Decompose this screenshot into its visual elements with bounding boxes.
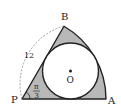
label-angle-numerator: π: [34, 83, 39, 91]
label-P: P: [11, 94, 18, 105]
label-angle-denominator: 3: [35, 92, 39, 100]
center-dot-O: [69, 70, 72, 73]
sector-diagram: P A B O 12 π 3: [0, 0, 121, 112]
label-O: O: [67, 75, 74, 85]
label-radius: 12: [24, 51, 34, 60]
label-B: B: [61, 11, 68, 22]
label-A: A: [107, 95, 116, 106]
